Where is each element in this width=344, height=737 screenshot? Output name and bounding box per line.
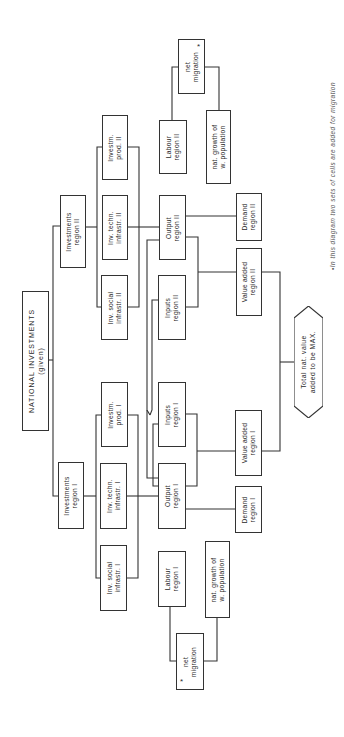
labour-region-1-node: Labourregion I (158, 551, 186, 607)
node-label: Inputs (164, 294, 172, 321)
node-sublabel: region II (172, 294, 180, 321)
asterisk-marker: * (180, 678, 183, 686)
node-label: Investm. (106, 401, 114, 429)
connector-lines (0, 0, 344, 737)
net-migration-1-node: netmigration * (176, 633, 204, 690)
demand-region-2-node: Demandregion II (236, 193, 262, 241)
node-sublabel: prod. II (115, 134, 123, 162)
node-label: Inv. techn. (107, 211, 115, 245)
output-region-1-node: Outputregion I (158, 463, 186, 529)
node-label: Investments (65, 212, 73, 251)
node-label: Inv. social (106, 291, 114, 324)
node-sublabel: region I (172, 402, 180, 427)
node-label: Inputs (164, 402, 172, 427)
node-sublabel: infrastr. I (114, 562, 122, 595)
node-label: Value added (240, 423, 248, 463)
inv-techn-infrastr-1-node: Inv. techn.infrastr. I (100, 463, 127, 529)
node-sublabel: prod. I (115, 401, 123, 429)
inv-techn-infrastr-2-node: Inv. techn.infrastr. II (102, 195, 128, 260)
node-label: Investm. (107, 134, 115, 162)
node-sublabel: region I (249, 423, 257, 463)
investments-region-2-node: Investmentsregion II (60, 195, 86, 268)
node-label: net (182, 646, 190, 676)
node-sublabel: region I (172, 484, 180, 509)
inputs-region-1-node: Inputsregion I (158, 382, 186, 447)
node-sublabel: region II (249, 262, 257, 302)
node-label: Value added (241, 262, 249, 302)
node-sublabel: region II (249, 203, 257, 230)
node-sublabel: region II (173, 134, 181, 161)
node-sublabel: region I (172, 567, 180, 592)
node-label: Labour (165, 134, 173, 161)
investm-prod-2-node: Investm.prod. II (102, 115, 128, 180)
net-migration-2-node: netmigration * (178, 39, 205, 94)
output-region-2-node: Outputregion II (159, 195, 186, 260)
node-sublabel: region I (249, 496, 257, 523)
node-label: Total nat. value (300, 331, 309, 393)
investments-region-1-node: Investmentsregion I (58, 462, 84, 529)
node-label: nat. growth of (210, 125, 218, 170)
footnote: •In this diagram two sets of cells are a… (329, 82, 336, 270)
investm-prod-1-node: Investm.prod. I (101, 382, 128, 447)
node-label: Output (164, 484, 172, 509)
node-sublabel: migration (192, 51, 200, 81)
inputs-region-2-node: Inputsregion II (158, 275, 186, 340)
node-label: Labour (164, 567, 172, 592)
node-sublabel: region II (173, 214, 181, 241)
labour-region-2-node: Labourregion II (159, 120, 187, 174)
node-label: Demand (240, 496, 248, 523)
nat-growth-population-1-node: nat. growth ofw. population (205, 541, 230, 618)
node-label: Output (164, 214, 172, 241)
inv-social-infrastr-2-node: Inv. socialinfrastr. II (101, 275, 128, 340)
node-label: Inv. techn. (105, 479, 113, 513)
flow-diagram: NATIONAL INVESTMENTS (given) Investments… (0, 0, 344, 737)
node-label: Investments (63, 476, 71, 515)
node-sublabel: (given) (36, 309, 45, 413)
node-label: net (183, 51, 191, 81)
node-sublabel: w. population (218, 557, 226, 602)
node-sublabel: infrastr. II (115, 291, 123, 324)
total-value-added-node: Total nat. value added to be MAX. (294, 306, 323, 418)
node-label: Inv. social (105, 562, 113, 595)
node-sublabel: added to be MAX. (309, 331, 318, 393)
demand-region-1-node: Demandregion I (235, 486, 262, 533)
node-sublabel: region II (73, 212, 81, 251)
value-added-region-2-node: Value addedregion II (236, 248, 262, 316)
inv-social-infrastr-1-node: Inv. socialinfrastr. I (100, 545, 127, 611)
node-label: nat. growth of (209, 557, 217, 602)
node-sublabel: infrastr. I (114, 479, 122, 513)
node-label: NATIONAL INVESTMENTS (27, 309, 36, 413)
node-sublabel: w. population (219, 125, 227, 170)
asterisk-marker: * (197, 43, 200, 51)
node-sublabel: migration (190, 646, 198, 676)
national-investments-node: NATIONAL INVESTMENTS (given) (22, 291, 49, 431)
value-added-region-1-node: Value addedregion I (235, 410, 262, 476)
node-label: Demand (241, 203, 249, 230)
node-sublabel: region I (71, 476, 79, 515)
node-sublabel: infrastr. II (115, 211, 123, 245)
nat-growth-population-2-node: nat. growth ofw. population (206, 110, 231, 184)
